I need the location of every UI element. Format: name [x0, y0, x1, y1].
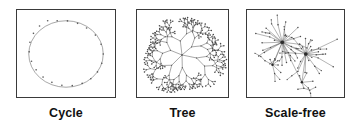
cycle-graph [17, 10, 115, 97]
tree-edges [144, 17, 227, 92]
caption-cycle: Cycle [16, 106, 116, 120]
scale-free-nodes [254, 14, 337, 97]
scale-free-graph [247, 10, 344, 97]
tree-nodes [143, 17, 227, 93]
caption-scale-free: Scale-free [246, 106, 345, 120]
tree-graph [137, 10, 228, 97]
cycle-nodes [28, 20, 104, 87]
scale-free-edges [255, 15, 337, 97]
cycle-edges [29, 21, 103, 87]
panel-scale-free [246, 9, 345, 98]
caption-tree: Tree [136, 106, 229, 120]
panel-tree [136, 9, 229, 98]
panel-cycle [16, 9, 116, 98]
network-topology-figure: Cycle Tree Scale-free [0, 0, 356, 130]
